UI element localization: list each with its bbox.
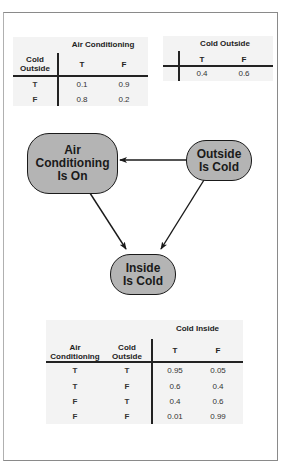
- row-condition: F: [104, 382, 150, 391]
- row-condition: F: [46, 412, 104, 421]
- table-cell: 0.4: [157, 397, 193, 406]
- table-cell: 0.95: [157, 366, 193, 375]
- header-divider: [46, 361, 243, 363]
- column-divider: [151, 339, 153, 424]
- node-label-line: Inside: [123, 262, 163, 275]
- table-cell: 0.01: [157, 412, 193, 421]
- row-condition: T: [46, 382, 104, 391]
- row-condition: T: [46, 366, 104, 375]
- row-condition: T: [104, 366, 150, 375]
- node-label-line: Is Cold: [197, 161, 242, 174]
- node-outside-is-cold: Outside Is Cold: [186, 140, 252, 181]
- edge-outside-to-inside: [161, 180, 204, 249]
- table-cell: 0.6: [198, 397, 238, 406]
- node-label-line: Outside: [197, 148, 242, 161]
- node-label-line: Is Cold: [123, 275, 163, 288]
- row-header-line: Cold: [104, 343, 150, 352]
- column-header-t: T: [157, 346, 193, 355]
- row-condition: T: [104, 397, 150, 406]
- row-condition: F: [104, 412, 150, 421]
- node-label-line: Is On: [36, 170, 110, 183]
- row-header-line: Air: [46, 343, 104, 352]
- table-cell: 0.99: [198, 412, 238, 421]
- row-header-line: Conditioning: [46, 352, 104, 361]
- column-group-header: Cold Inside: [152, 324, 243, 333]
- table-cell: 0.4: [198, 382, 238, 391]
- column-header-f: F: [198, 346, 238, 355]
- edge-ac-to-inside: [88, 190, 126, 249]
- table-cell: 0.05: [198, 366, 238, 375]
- node-air-conditioning-is-on: Air Conditioning Is On: [27, 133, 118, 194]
- node-inside-is-cold: Inside Is Cold: [110, 254, 176, 295]
- row-condition: F: [46, 397, 104, 406]
- table-cell: 0.6: [157, 382, 193, 391]
- row-header-line: Outside: [104, 352, 150, 361]
